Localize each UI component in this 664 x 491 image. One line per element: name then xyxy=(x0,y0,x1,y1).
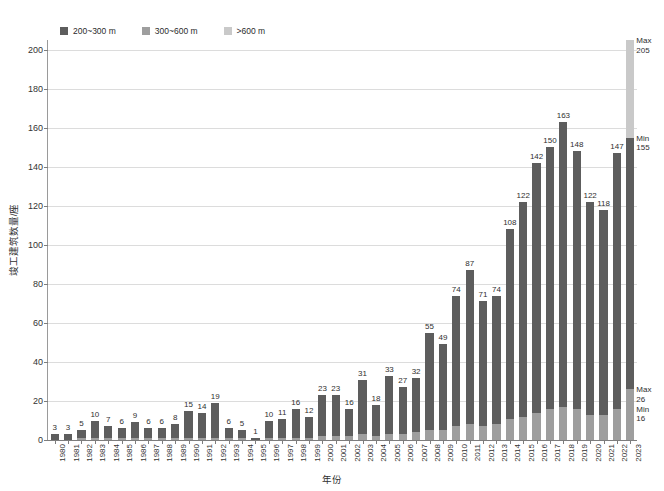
bar-column[interactable]: 91986 xyxy=(128,40,141,440)
bar-value-label: 16 xyxy=(291,398,300,407)
bar-column[interactable]: 61988 xyxy=(155,40,168,440)
bar-column[interactable]: 1472022 xyxy=(610,40,623,440)
x-tick-mark xyxy=(483,440,484,444)
segment-200-300 xyxy=(492,296,500,425)
bar-value-label: 1 xyxy=(253,427,257,436)
bar-column[interactable]: 552008 xyxy=(423,40,436,440)
y-tick-label: 180 xyxy=(28,84,43,94)
bar-column[interactable]: 2023 xyxy=(624,40,637,440)
bar-stack xyxy=(345,409,353,440)
x-tick-label: 2007 xyxy=(420,444,429,462)
bar-column[interactable]: 232000 xyxy=(316,40,329,440)
x-tick-mark xyxy=(563,440,564,444)
bar-column[interactable]: 11995 xyxy=(249,40,262,440)
bar-value-label: 8 xyxy=(173,413,177,422)
bar-value-label: 6 xyxy=(146,417,150,426)
bar-value-label: 15 xyxy=(184,400,193,409)
x-tick-label: 1997 xyxy=(286,444,295,462)
bar-column[interactable]: 191992 xyxy=(209,40,222,440)
bar-column[interactable]: 1482019 xyxy=(570,40,583,440)
bar-column[interactable]: 31980 xyxy=(48,40,61,440)
bar-column[interactable]: 61993 xyxy=(222,40,235,440)
bar-column[interactable]: 51994 xyxy=(235,40,248,440)
bar-column[interactable]: 1422016 xyxy=(530,40,543,440)
legend-item-3[interactable]: >600 m xyxy=(224,26,266,36)
bar-stack xyxy=(399,387,407,440)
segment-300-600 xyxy=(599,415,607,440)
bar-column[interactable]: 31981 xyxy=(61,40,74,440)
bar-column[interactable]: 1502017 xyxy=(543,40,556,440)
x-tick-mark xyxy=(282,440,283,444)
x-tick-mark xyxy=(349,440,350,444)
bar-value-label: 16 xyxy=(345,398,354,407)
bar-column[interactable]: 121999 xyxy=(302,40,315,440)
bar-value-label: 32 xyxy=(412,367,421,376)
bar-column[interactable]: 101996 xyxy=(262,40,275,440)
bar-column[interactable]: 332005 xyxy=(383,40,396,440)
bar-value-label: 5 xyxy=(240,419,244,428)
segment-200-300 xyxy=(626,138,634,390)
bar-stack xyxy=(479,301,487,440)
y-tick-label: 40 xyxy=(33,357,43,367)
bar-value-label: 31 xyxy=(358,369,367,378)
bar-value-label: 142 xyxy=(530,152,543,161)
bar-column[interactable]: 712012 xyxy=(476,40,489,440)
bar-column[interactable]: 742010 xyxy=(450,40,463,440)
segment-300-600 xyxy=(492,424,500,440)
bar-column[interactable]: 322007 xyxy=(409,40,422,440)
x-tick-mark xyxy=(403,440,404,444)
bar-series-group: 3198031981519821019837198461985919866198… xyxy=(48,40,637,440)
bar-column[interactable]: 232001 xyxy=(329,40,342,440)
bar-column[interactable]: 51982 xyxy=(75,40,88,440)
legend-swatch-icon xyxy=(224,27,232,35)
bar-column[interactable]: 161998 xyxy=(289,40,302,440)
bar-stack xyxy=(559,122,567,440)
segment-200-300 xyxy=(532,163,540,413)
segment-200-300 xyxy=(104,426,112,438)
x-tick-label: 2021 xyxy=(607,444,616,462)
bar-column[interactable]: 162002 xyxy=(343,40,356,440)
x-tick-label: 2020 xyxy=(594,444,603,462)
bar-column[interactable]: 492009 xyxy=(436,40,449,440)
segment-300-600 xyxy=(573,409,581,440)
legend-item-label: >600 m xyxy=(237,26,266,36)
bar-value-label: 118 xyxy=(597,199,610,208)
segment-200-300 xyxy=(399,387,407,434)
x-tick-label: 1983 xyxy=(98,444,107,462)
bar-column[interactable]: 1222015 xyxy=(517,40,530,440)
bar-column[interactable]: 1632018 xyxy=(557,40,570,440)
bar-value-label: 18 xyxy=(372,394,381,403)
bar-column[interactable]: 81989 xyxy=(168,40,181,440)
bar-column[interactable]: 742013 xyxy=(490,40,503,440)
legend-item-2[interactable]: 300~600 m xyxy=(142,26,198,36)
bar-column[interactable]: 61987 xyxy=(142,40,155,440)
bar-stack xyxy=(573,151,581,440)
segment-200-300 xyxy=(599,210,607,415)
bar-column[interactable]: 151990 xyxy=(182,40,195,440)
bar-column[interactable]: 61985 xyxy=(115,40,128,440)
x-tick-mark xyxy=(510,440,511,444)
x-tick-mark xyxy=(135,440,136,444)
bar-column[interactable]: 1082014 xyxy=(503,40,516,440)
bar-column[interactable]: 111997 xyxy=(276,40,289,440)
bar-column[interactable]: 1182021 xyxy=(597,40,610,440)
bar-column[interactable]: 272006 xyxy=(396,40,409,440)
bar-column[interactable]: 141991 xyxy=(195,40,208,440)
x-tick-mark xyxy=(322,440,323,444)
bar-column[interactable]: 182004 xyxy=(369,40,382,440)
x-tick-mark xyxy=(443,440,444,444)
bar-column[interactable]: 1222020 xyxy=(583,40,596,440)
bar-column[interactable]: 312003 xyxy=(356,40,369,440)
bar-value-label: 6 xyxy=(226,417,230,426)
bar-column[interactable]: 872011 xyxy=(463,40,476,440)
legend-item-1[interactable]: 200~300 m xyxy=(60,26,116,36)
bar-stack xyxy=(305,417,313,440)
x-tick-label: 2017 xyxy=(553,444,562,462)
x-tick-label: 1999 xyxy=(313,444,322,462)
segment-200-300 xyxy=(265,421,273,439)
x-tick-mark xyxy=(215,440,216,444)
bar-column[interactable]: 71984 xyxy=(102,40,115,440)
x-tick-label: 1990 xyxy=(192,444,201,462)
bar-column[interactable]: 101983 xyxy=(88,40,101,440)
bar-value-label: 12 xyxy=(305,406,314,415)
